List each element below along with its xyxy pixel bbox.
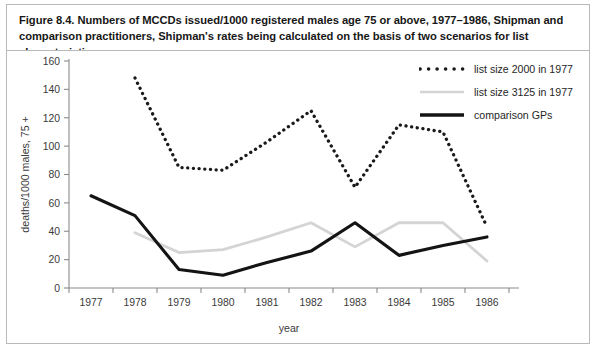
series-line-2 (91, 196, 487, 275)
axis-tick-label: 100 (43, 141, 61, 152)
axis-tick-label: 1986 (475, 297, 498, 308)
axis-tick-label: 1983 (343, 297, 366, 308)
axis-tick-label: 1985 (431, 297, 454, 308)
axis-tick-label: 1981 (255, 297, 278, 308)
legend-item: list size 3125 in 1977 (419, 80, 595, 103)
axis-tick-label: 1980 (211, 297, 234, 308)
axis-tick-label: 1984 (387, 297, 410, 308)
figure-container: Figure 8.4. Numbers of MCCDs issued/1000… (0, 0, 596, 350)
axis-tick-label: 1982 (299, 297, 322, 308)
axis-tick-label: 40 (48, 226, 60, 237)
axis-tick-label: 140 (43, 84, 61, 95)
legend-item: list size 2000 in 1977 (419, 57, 595, 80)
legend-swatch-light (419, 86, 465, 98)
axis-tick-label: 120 (43, 113, 61, 124)
axis-tick-label: 1978 (123, 297, 146, 308)
axis-tick-label: 20 (48, 254, 60, 265)
x-axis-title: year (279, 322, 300, 334)
legend-label: list size 2000 in 1977 (474, 63, 573, 75)
legend-swatch-dotted (419, 63, 465, 75)
axis-tick-label: 1977 (79, 297, 102, 308)
axis-tick-label: 60 (48, 198, 60, 209)
axis-tick-label: 160 (43, 56, 61, 67)
series-line-1 (135, 223, 487, 261)
axis-tick-label: 0 (54, 283, 60, 294)
plot-area: 0204060801001201401601977197819791980198… (6, 50, 590, 344)
legend-label: comparison GPs (474, 109, 552, 121)
axis-tick-label: 1979 (167, 297, 190, 308)
axis-tick-label: 80 (48, 169, 60, 180)
legend-item: comparison GPs (419, 103, 595, 126)
chart-legend: list size 2000 in 1977 list size 3125 in… (419, 57, 595, 126)
y-axis-title: deaths/1000 males, 75 + (19, 116, 31, 232)
legend-label: list size 3125 in 1977 (474, 86, 573, 98)
legend-swatch-bold (419, 109, 465, 121)
